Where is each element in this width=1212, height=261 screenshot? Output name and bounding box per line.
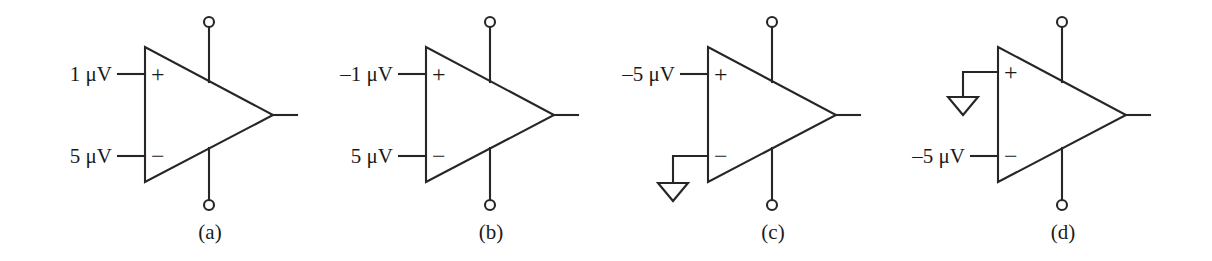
bottom-supply-terminal-a: [204, 200, 214, 210]
caption-d: (d): [1013, 222, 1113, 243]
circuit-b: –1 μV 5 μV + − (b): [281, 0, 591, 261]
caption-c: (c): [723, 222, 823, 243]
minus-terminal-sign-d: −: [1004, 144, 1018, 168]
opamp-figure: 1 μV 5 μV + − (a) –1 μV 5 μV + − (b): [0, 0, 1212, 261]
plus-input-label-c: –5 μV: [577, 64, 675, 85]
plus-input-label-a: 1 μV: [38, 64, 112, 85]
plus-input-label-b: –1 μV: [305, 64, 393, 85]
caption-b: (b): [441, 222, 541, 243]
bottom-supply-terminal-b: [485, 200, 495, 210]
ground-symbol-d: [948, 97, 978, 115]
plus-terminal-sign-b: +: [432, 62, 446, 86]
plus-terminal-sign-d: +: [1004, 60, 1018, 84]
top-supply-terminal-b: [485, 17, 495, 27]
circuit-b-schematic: [281, 0, 591, 261]
top-supply-terminal-a: [204, 17, 214, 27]
minus-ground-wire-c: [673, 156, 708, 183]
circuit-c: –5 μV + − (c): [563, 0, 883, 261]
top-supply-terminal-d: [1057, 17, 1067, 27]
minus-input-label-b: 5 μV: [305, 146, 393, 167]
circuit-a: 1 μV 5 μV + − (a): [0, 0, 310, 261]
plus-ground-wire-d: [963, 72, 998, 97]
ground-symbol-c: [658, 183, 688, 201]
circuit-d: –5 μV + − (d): [853, 0, 1212, 261]
minus-terminal-sign-b: −: [432, 144, 446, 168]
minus-terminal-sign-a: −: [151, 144, 165, 168]
plus-terminal-sign-a: +: [151, 62, 165, 86]
caption-a: (a): [160, 222, 260, 243]
plus-terminal-sign-c: +: [714, 62, 728, 86]
minus-input-label-a: 5 μV: [38, 146, 112, 167]
bottom-supply-terminal-d: [1057, 200, 1067, 210]
top-supply-terminal-c: [767, 17, 777, 27]
minus-terminal-sign-c: −: [714, 144, 728, 168]
bottom-supply-terminal-c: [767, 200, 777, 210]
minus-input-label-d: –5 μV: [867, 146, 965, 167]
circuit-a-schematic: [0, 0, 310, 261]
